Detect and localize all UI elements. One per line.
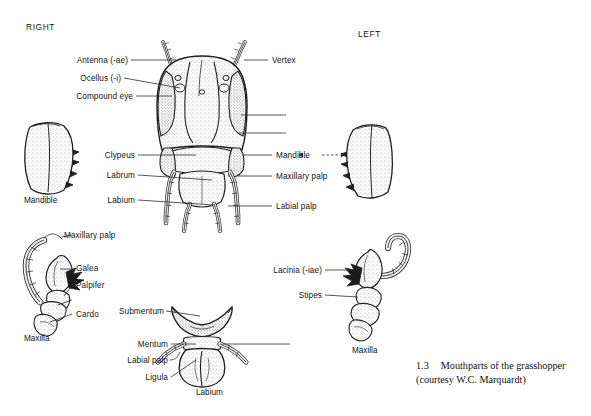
right-maxilla-artwork xyxy=(325,235,409,342)
label-maxillary-palp-head: Maxillary palp xyxy=(276,172,327,181)
label-submentum: Submentum xyxy=(88,307,164,316)
label-mentum: Mentum xyxy=(96,340,168,349)
figure-number: 1.3 xyxy=(416,360,429,371)
label-compound-eye: Compound eye xyxy=(0,92,133,101)
head-artwork xyxy=(124,42,286,231)
caption-left-maxilla: Maxilla xyxy=(24,334,49,343)
figure-caption-line1: 1.3Mouthparts of the grasshopper xyxy=(416,359,566,373)
label-labrum: Labrum xyxy=(0,171,135,180)
label-palpifer: Palpifer xyxy=(76,281,105,290)
label-ligula: Ligula xyxy=(96,373,168,382)
labium-artwork xyxy=(158,307,290,387)
left-mandible-artwork xyxy=(299,125,392,198)
label-clypeus: Clypeus xyxy=(0,151,135,160)
label-lacinia: Lacinia (-iae) xyxy=(250,266,322,275)
caption-labium: Labium xyxy=(196,388,223,397)
label-labial-palp-head: Labial palp xyxy=(276,202,317,211)
label-vertex: Vertex xyxy=(272,56,296,65)
label-labial-palp-labium: Labial palp xyxy=(88,356,168,365)
label-mandible-head: Mandible xyxy=(276,151,310,160)
caption-right-mandible: Mandible xyxy=(24,196,57,205)
caption-right-maxilla: Maxilla xyxy=(352,346,377,355)
label-stipes: Stipes xyxy=(250,291,322,300)
label-galea: Galea xyxy=(76,264,98,273)
label-ocellus: Ocellus (-i) xyxy=(0,74,121,83)
label-antenna: Antenna (-ae) xyxy=(0,56,128,65)
figure-caption-text: Mouthparts of the grasshopper xyxy=(441,360,566,371)
label-maxillary-palp-maxilla: Maxillary palp xyxy=(64,231,115,240)
figure-grasshopper-mouthparts: RIGHT LEFT xyxy=(0,0,591,416)
figure-caption-line2: (courtesy W.C. Marquardt) xyxy=(416,373,526,387)
label-labium: Labium xyxy=(0,196,135,205)
